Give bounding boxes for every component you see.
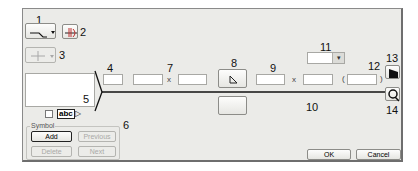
callout-3: 3 — [59, 49, 65, 61]
times-separator: x — [167, 75, 171, 84]
open-paren: ( — [342, 74, 345, 83]
symbol-group: Symbol Add Previous Delete Next — [26, 126, 120, 160]
weld-type-button-arrow-side[interactable] — [218, 69, 247, 88]
ok-button[interactable]: OK — [307, 149, 351, 160]
abc-tail-button[interactable]: abc ▷ — [57, 109, 81, 119]
tail-text-area[interactable]: 5 — [25, 73, 95, 107]
next-button[interactable]: Next — [78, 146, 116, 157]
callout-9: 9 — [270, 62, 276, 74]
arrow-right-icon: ▷ — [75, 110, 81, 118]
grid-dropdown[interactable] — [25, 47, 56, 63]
leader-line-icon — [26, 24, 57, 40]
callout-2: 2 — [80, 26, 86, 38]
close-paren: ) — [380, 74, 383, 83]
leader-style-dropdown[interactable] — [25, 23, 56, 39]
chevron-down-icon: ▾ — [332, 53, 344, 63]
abc-label: abc — [57, 109, 75, 119]
symbol-group-legend: Symbol — [30, 122, 55, 129]
callout-14: 14 — [386, 104, 398, 116]
all-around-button[interactable] — [385, 87, 400, 101]
tail-checkbox[interactable] — [45, 110, 53, 118]
times-separator-2: x — [292, 75, 296, 84]
weld-type-button-other-side[interactable] — [218, 96, 247, 115]
field-10[interactable] — [303, 74, 333, 85]
field-weld-flag-button[interactable] — [385, 65, 400, 79]
fillet-weld-icon — [219, 70, 248, 89]
field-9[interactable] — [256, 74, 285, 85]
cancel-button[interactable]: Cancel — [356, 149, 401, 160]
callout-8: 8 — [231, 57, 237, 69]
field-4[interactable] — [103, 74, 123, 85]
field-7b[interactable] — [178, 74, 207, 85]
weld-symbol-dialog: 1 2 3 5 abc ▷ — [22, 8, 403, 162]
field-12[interactable] — [347, 74, 377, 85]
callout-7: 7 — [167, 62, 173, 74]
weld-symbol-icon — [63, 25, 79, 40]
callout-4: 4 — [107, 62, 113, 74]
crosshair-icon — [26, 48, 57, 64]
callout-12: 12 — [368, 60, 380, 72]
delete-button[interactable]: Delete — [31, 146, 72, 157]
callout-5: 5 — [83, 93, 89, 105]
weld-symbol-toggle[interactable] — [62, 24, 78, 39]
dropdown-11[interactable]: ▾ — [307, 52, 345, 64]
add-button[interactable]: Add — [31, 131, 72, 142]
flag-icon — [386, 66, 401, 80]
callout-10: 10 — [306, 101, 318, 113]
previous-button[interactable]: Previous — [78, 131, 116, 142]
callout-13: 13 — [386, 52, 398, 64]
callout-6: 6 — [123, 119, 129, 131]
field-7a[interactable] — [133, 74, 163, 85]
all-around-circle-icon — [386, 88, 401, 102]
